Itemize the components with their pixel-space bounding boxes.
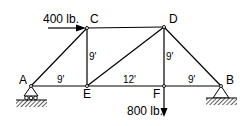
joint-f	[163, 85, 166, 88]
support-b-pin	[206, 86, 237, 105]
node-label-d: D	[169, 12, 178, 26]
dim-label-ce: 9'	[89, 51, 97, 62]
joint-a	[30, 85, 33, 88]
node-label-e: E	[83, 87, 91, 101]
joint-b	[220, 85, 223, 88]
truss-diagram: A B C D E F 9' 12' 9' 9' 9' 400 lb. 800 …	[0, 0, 249, 126]
dim-label-ef: 12'	[123, 74, 136, 85]
node-label-a: A	[19, 73, 27, 87]
joint-c	[86, 27, 89, 30]
dim-label-fb: 9'	[188, 74, 196, 85]
node-label-b: B	[226, 73, 234, 87]
dim-label-df: 9'	[166, 51, 174, 62]
node-label-c: C	[90, 12, 99, 26]
dim-label-ae: 9'	[57, 74, 65, 85]
ground-hatch-b	[206, 98, 237, 105]
load-label-800: 800 lb.	[127, 104, 163, 118]
ground-hatch-a	[16, 100, 47, 107]
load-label-400: 400 lb.	[43, 12, 79, 26]
support-a-roller	[16, 86, 47, 107]
joint-d	[163, 26, 166, 29]
member-CD	[87, 27, 164, 28]
node-label-f: F	[153, 87, 160, 101]
